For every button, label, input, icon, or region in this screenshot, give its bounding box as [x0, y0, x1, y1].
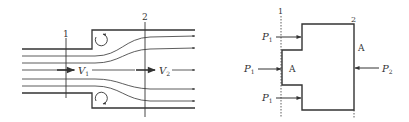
section-label-2: 2 [142, 12, 148, 22]
area-label-inlet: A [288, 64, 296, 74]
cv-section-label-1: 1 [278, 7, 283, 16]
pipe-bottom-wall [22, 93, 195, 108]
cv-section-label-2: 2 [351, 15, 356, 24]
diagram-canvas: 1 2 V1 V2 1 2 A A P1 P1 P1 P2 [0, 0, 409, 122]
area-label-outlet: A [357, 43, 365, 53]
velocity-label-v2: V2 [159, 65, 170, 77]
eddy-bottom [95, 92, 107, 104]
eddy-top [95, 34, 107, 46]
pressure-label-p1-top: P1 [261, 31, 273, 43]
streamlines [22, 36, 195, 101]
pressure-label-p2: P2 [381, 63, 393, 75]
pressure-label-p1-mid: P1 [243, 63, 255, 75]
control-volume-figure [258, 16, 379, 118]
pressure-label-p1-bot: P1 [261, 92, 273, 104]
pipe-top-wall [22, 30, 195, 49]
section-label-1: 1 [63, 29, 69, 39]
velocity-label-v1: V1 [78, 65, 89, 77]
